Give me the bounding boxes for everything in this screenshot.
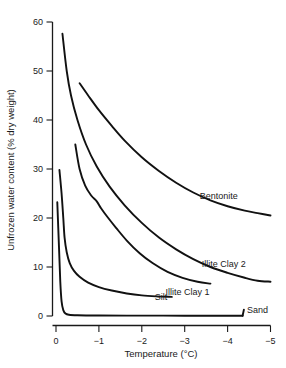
x-tick-label: −4 [222, 336, 232, 346]
y-tick-label: 30 [33, 164, 43, 174]
leader-sand [243, 310, 244, 316]
x-axis-tick-labels: 0−1−2−3−4−5 [53, 336, 275, 346]
series-label-sand: Sand [247, 305, 268, 315]
series-label-illite-clay-1: Illite Clay 1 [165, 287, 209, 297]
y-tick-label: 50 [33, 66, 43, 76]
y-tick-label: 20 [33, 213, 43, 223]
x-axis-ticks [56, 326, 271, 333]
curve-bentonite [80, 83, 271, 215]
series-label-illite-clay-2: Illite Clay 2 [202, 259, 246, 269]
y-axis-tick-labels: 0102030405060 [33, 17, 43, 321]
y-tick-label: 10 [33, 262, 43, 272]
x-tick-label: −1 [94, 336, 104, 346]
y-tick-label: 0 [38, 311, 43, 321]
figure-container: 0102030405060 0−1−2−3−4−5 BentoniteIllit… [0, 0, 286, 368]
y-tick-label: 40 [33, 115, 43, 125]
x-tick-label: −3 [180, 336, 190, 346]
x-tick-label: 0 [53, 336, 58, 346]
unfrozen-water-content-chart: 0102030405060 0−1−2−3−4−5 BentoniteIllit… [0, 0, 286, 368]
x-tick-label: −2 [137, 336, 147, 346]
y-tick-label: 60 [33, 17, 43, 27]
y-axis-title: Unfrozen water content (% dry weight) [5, 89, 16, 251]
figure-caption-strip [0, 359, 286, 368]
y-axis-ticks [47, 22, 53, 316]
data-curves-group [57, 34, 270, 316]
series-labels-group: BentoniteIllite Clay 2Illite Clay 1SiltS… [155, 191, 268, 315]
x-tick-label: −5 [265, 336, 275, 346]
series-label-bentonite: Bentonite [200, 191, 238, 201]
x-axis-title: Temperature (°C) [125, 348, 198, 359]
series-label-silt: Silt [155, 292, 168, 302]
curve-illite-clay-2 [62, 34, 270, 282]
